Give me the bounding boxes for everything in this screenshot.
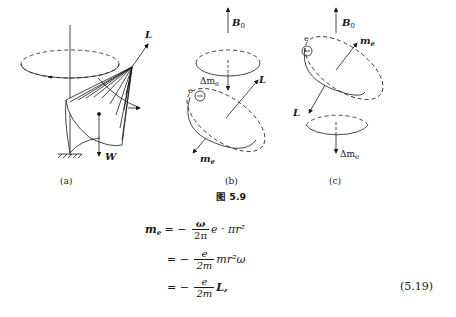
label-a-W: W xyxy=(105,152,116,162)
caption-b: (b) xyxy=(225,176,238,186)
label-c-B0: B0 xyxy=(342,18,355,30)
label-c-electron: e xyxy=(304,35,309,43)
label-c-me: me xyxy=(360,36,375,47)
label-c-delta-me: Δme xyxy=(340,150,359,161)
label-b-electron: e xyxy=(188,87,193,95)
equation-line-2: = − e2mmr²ω xyxy=(167,248,245,272)
label-b-L: L xyxy=(259,75,266,85)
label-b-B0: B0 xyxy=(232,18,245,30)
equation-number: (5.19) xyxy=(400,280,433,293)
figure-title: 图 5.9 xyxy=(216,189,246,203)
label-b-delta-me: Δme xyxy=(200,77,219,88)
label-b-me: me xyxy=(200,154,215,165)
panel-a-top-drawing xyxy=(21,25,148,158)
caption-a: (a) xyxy=(60,176,72,186)
caption-c: (c) xyxy=(329,176,341,186)
equation-line-3: = − e2mL, xyxy=(167,276,228,300)
label-c-L: L xyxy=(293,108,300,118)
label-a-L: L xyxy=(145,30,152,40)
equation-line-1: me = − ω2πe · πr² xyxy=(145,218,245,242)
